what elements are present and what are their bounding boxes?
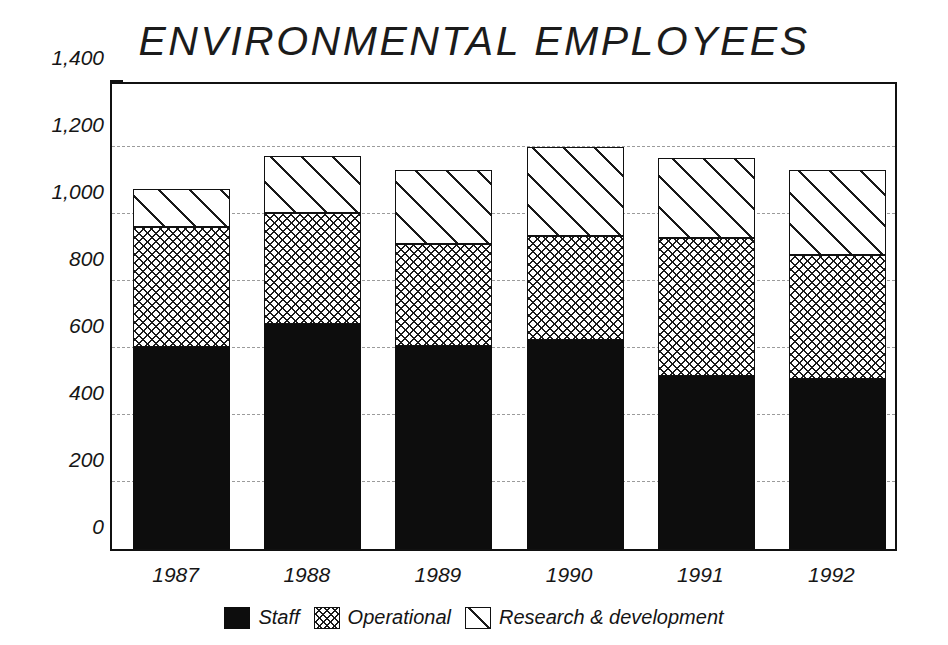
bar-segment-1991-staff[interactable] (658, 376, 755, 549)
chart-legend: StaffOperationalResearch & development (0, 606, 948, 629)
y-tick-label-600: 600 (2, 314, 104, 338)
x-tick-label-1990: 1990 (504, 563, 635, 587)
x-tick-label-1988: 1988 (241, 563, 372, 587)
y-tick-label-800: 800 (2, 247, 104, 271)
bar-segment-1987-operational[interactable] (133, 227, 230, 347)
gridline-1200 (112, 146, 895, 147)
bar-segment-1988-research-development[interactable] (264, 156, 361, 213)
legend-label-staff: Staff (258, 606, 299, 629)
bar-segment-1990-research-development[interactable] (527, 147, 624, 236)
legend-item-rd[interactable]: Research & development (465, 606, 724, 629)
bar-segment-1991-research-development[interactable] (658, 158, 755, 238)
legend-label-rd: Research & development (499, 606, 724, 629)
legend-swatch-staff-icon (224, 607, 250, 629)
bar-segment-1989-staff[interactable] (395, 346, 492, 549)
plot-area (110, 82, 897, 551)
bar-segment-1989-research-development[interactable] (395, 170, 492, 244)
legend-swatch-rd-icon (465, 607, 491, 629)
legend-label-operational: Operational (348, 606, 451, 629)
y-tick-label-1000: 1,000 (2, 180, 104, 204)
bar-segment-1989-operational[interactable] (395, 244, 492, 346)
bar-segment-1988-staff[interactable] (264, 324, 361, 549)
bar-segment-1991-operational[interactable] (658, 238, 755, 376)
x-axis-labels: 198719881989199019911992 (110, 563, 897, 597)
x-tick-label-1987: 1987 (110, 563, 241, 587)
bar-segment-1992-operational[interactable] (789, 255, 886, 379)
bar-group-1989[interactable] (395, 170, 492, 549)
bar-group-1988[interactable] (264, 156, 361, 549)
legend-swatch-operational-icon (314, 607, 340, 629)
y-tick-label-1400: 1,400 (2, 46, 104, 70)
bar-segment-1987-staff[interactable] (133, 347, 230, 549)
x-tick-label-1992: 1992 (766, 563, 897, 587)
bar-segment-1992-staff[interactable] (789, 379, 886, 549)
bar-segment-1992-research-development[interactable] (789, 170, 886, 255)
x-tick-label-1989: 1989 (372, 563, 503, 587)
y-tick-label-200: 200 (2, 448, 104, 472)
bar-segment-1990-staff[interactable] (527, 340, 624, 549)
bar-segment-1987-research-development[interactable] (133, 189, 230, 227)
bar-group-1991[interactable] (658, 158, 755, 549)
bar-group-1990[interactable] (527, 147, 624, 549)
chart-title: ENVIRONMENTAL EMPLOYEES (0, 18, 948, 65)
x-tick-label-1991: 1991 (635, 563, 766, 587)
chart-page: ENVIRONMENTAL EMPLOYEES 02004006008001,0… (0, 0, 948, 645)
y-axis-labels: 02004006008001,0001,2001,400 (0, 82, 104, 551)
legend-item-operational[interactable]: Operational (314, 606, 451, 629)
bar-group-1987[interactable] (133, 189, 230, 549)
bar-segment-1988-operational[interactable] (264, 213, 361, 324)
bar-group-1992[interactable] (789, 170, 886, 549)
y-tick-label-400: 400 (2, 381, 104, 405)
legend-item-staff[interactable]: Staff (224, 606, 299, 629)
bar-segment-1990-operational[interactable] (527, 236, 624, 340)
y-tick-label-1200: 1,200 (2, 113, 104, 137)
y-tick-label-0: 0 (2, 515, 104, 539)
